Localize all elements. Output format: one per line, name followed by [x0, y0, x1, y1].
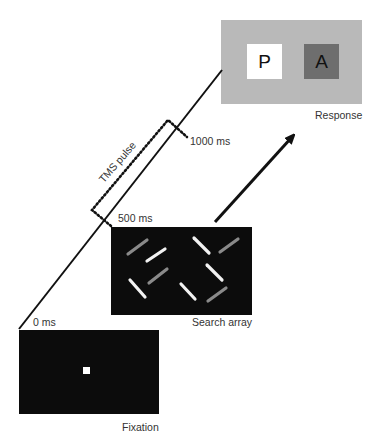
time-label-500ms: 500 ms	[118, 212, 152, 224]
search-array-items	[128, 238, 238, 301]
diagram-lines	[0, 0, 380, 443]
search-bar-white	[181, 284, 195, 299]
search-bar-white	[194, 238, 209, 253]
search-bar-white	[147, 249, 165, 261]
search-bar-gray	[220, 239, 238, 252]
time-label-1000ms: 1000 ms	[190, 135, 230, 147]
progress-arrow	[215, 137, 292, 222]
trial-sequence-diagram: P A Response Search array Fixation 0 ms …	[0, 0, 380, 443]
search-bar-gray	[149, 269, 167, 283]
search-bar-gray	[128, 240, 147, 254]
time-label-0ms: 0 ms	[33, 316, 56, 328]
search-bar-gray	[208, 288, 226, 301]
search-bar-white	[207, 265, 222, 280]
timeline-axis	[19, 70, 222, 329]
search-bar-white	[130, 280, 145, 297]
